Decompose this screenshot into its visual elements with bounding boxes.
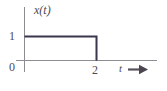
right-arrow-icon-head [139, 65, 148, 74]
figure-canvas [0, 0, 167, 91]
time-axis-label: t [119, 63, 122, 74]
signal-name-label: x(t) [34, 4, 51, 16]
origin-label-zero: 0 [9, 61, 15, 73]
signal-figure: x(t) 1 0 2 t [0, 0, 167, 91]
pulse-waveform [25, 37, 97, 61]
y-tick-label-one: 1 [9, 30, 15, 42]
x-tick-label-two: 2 [92, 64, 98, 76]
